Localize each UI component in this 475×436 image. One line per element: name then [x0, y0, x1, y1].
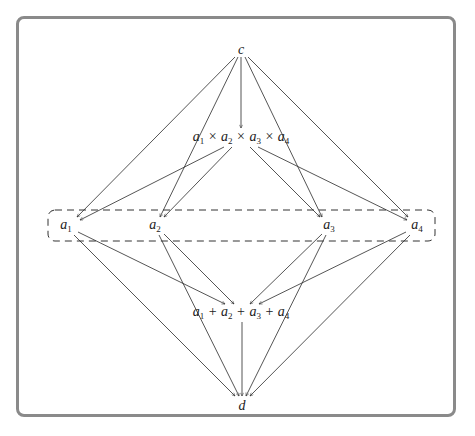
- node-a1: a1: [60, 218, 72, 234]
- node-a4: a4: [411, 218, 423, 234]
- edge-a3-to-sum: [250, 234, 322, 304]
- edge-prod-to-a2: [164, 147, 232, 217]
- node-a3: a3: [323, 218, 335, 234]
- edge-prod-to-a4: [258, 147, 407, 220]
- edge-a1-to-sum: [78, 232, 225, 304]
- edges: [74, 57, 410, 396]
- edge-prod-to-a1: [80, 147, 224, 220]
- node-sum: a1 + a2 + a3 + a4: [193, 305, 290, 321]
- edge-a2-to-sum: [164, 234, 234, 304]
- edge-a4-to-sum: [259, 232, 406, 304]
- node-c: c: [238, 43, 244, 57]
- node-prod: a1 × a2 × a3 × a4: [193, 130, 290, 146]
- dashed-group-box: [48, 210, 435, 241]
- edge-prod-to-a3: [250, 147, 320, 217]
- node-d: d: [239, 399, 246, 413]
- node-a2: a2: [149, 218, 161, 234]
